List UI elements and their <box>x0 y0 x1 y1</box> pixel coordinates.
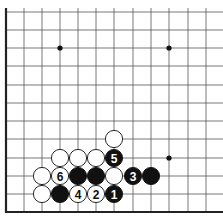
white-stone-icon <box>33 185 50 202</box>
black-stone-icon <box>142 167 159 184</box>
white-stone-icon <box>51 149 68 166</box>
white-stone[interactable] <box>33 185 50 202</box>
white-stone-icon <box>105 167 122 184</box>
black-stone-icon <box>51 185 68 202</box>
white-stone[interactable]: 6 <box>51 167 68 184</box>
black-stone-icon <box>69 167 86 184</box>
white-stone-icon <box>105 130 122 147</box>
white-stone[interactable]: 4 <box>69 185 86 202</box>
black-stone-icon <box>87 167 104 184</box>
move-number: 6 <box>57 170 64 184</box>
move-number: 2 <box>93 188 100 202</box>
move-number: 5 <box>111 152 118 166</box>
go-board[interactable]: 421635 <box>0 0 223 218</box>
black-stone[interactable]: 5 <box>105 149 122 166</box>
white-stone-icon <box>87 149 104 166</box>
white-stone[interactable] <box>33 167 50 184</box>
black-stone[interactable] <box>142 167 159 184</box>
white-stone[interactable] <box>87 149 104 166</box>
white-stone-icon <box>69 149 86 166</box>
black-stone[interactable]: 3 <box>124 167 141 184</box>
stones: 421635 <box>33 130 159 202</box>
white-stone[interactable] <box>69 149 86 166</box>
black-stone[interactable] <box>69 167 86 184</box>
white-stone[interactable]: 2 <box>87 185 104 202</box>
white-stone[interactable] <box>105 130 122 147</box>
white-stone[interactable] <box>51 149 68 166</box>
black-stone[interactable] <box>51 185 68 202</box>
black-stone[interactable]: 1 <box>105 185 122 202</box>
star-point <box>166 155 171 160</box>
star-point <box>166 45 171 50</box>
white-stone-icon <box>33 167 50 184</box>
white-stone[interactable] <box>105 167 122 184</box>
move-number: 1 <box>111 188 118 202</box>
move-number: 4 <box>75 188 82 202</box>
star-point <box>57 45 62 50</box>
move-number: 3 <box>130 170 137 184</box>
black-stone[interactable] <box>87 167 104 184</box>
